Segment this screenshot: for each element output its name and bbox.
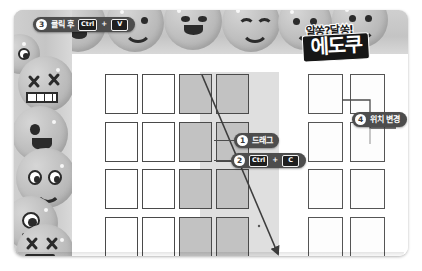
screenshot-root: 알쏭?달쏭! 에도쿠 3 클릭 후 Ctrl + V 1 드래그 2 Ctrl … [0,0,422,271]
grid-cell[interactable] [142,217,175,256]
instruction-page-card: 알쏭?달쏭! 에도쿠 [14,10,408,256]
callout-2-number: 2 [234,155,245,166]
callout-step-3: 3 클릭 후 Ctrl + V [33,17,135,32]
tongue-out-face-icon [222,10,280,52]
grid-cell[interactable] [105,122,138,162]
callout-step-2: 2 Ctrl + C [231,153,306,168]
key-ctrl: Ctrl [78,19,97,31]
grid-cell[interactable] [105,169,138,209]
result-cell[interactable] [308,217,343,256]
grid-cell-selected[interactable] [179,74,212,114]
x-eyes-face-icon [18,56,72,112]
key-ctrl: Ctrl [249,155,268,167]
result-cell[interactable] [308,169,343,209]
eye-icon [48,170,62,185]
result-cell[interactable] [350,217,385,256]
key-v: V [111,19,128,31]
callout-1-number: 1 [237,135,248,146]
grid-cell-selected[interactable] [216,217,249,256]
smiley-band-left [14,10,72,256]
callout-3-text: 클릭 후 [51,21,74,29]
callout-4-number: 4 [355,114,366,125]
puzzle-grid[interactable] [105,74,252,256]
callout-4-text: 위치 변경 [370,116,400,124]
grid-cell-selected[interactable] [216,74,249,114]
callout-step-4: 4 위치 변경 [352,112,407,127]
grid-cell-selected[interactable] [179,169,212,209]
grin-face-icon [164,10,222,50]
callout-1-text: 드래그 [252,137,272,145]
card-bottom-shadow [18,252,404,257]
grid-cell[interactable] [142,122,175,162]
logo-name: 에도쿠 [302,32,370,62]
eye-icon [28,170,42,185]
grid-cell[interactable] [105,74,138,114]
grid-cell-selected[interactable] [179,122,212,162]
grid-cell[interactable] [105,217,138,256]
teeth-icon [26,92,58,103]
key-separator: + [101,21,107,28]
result-cell[interactable] [308,122,343,162]
callout-step-1: 1 드래그 [234,133,279,148]
grid-cell-selected[interactable] [179,217,212,256]
brand-logo: 알쏭?달쏭! 에도쿠 [299,10,408,71]
key-separator: + [272,157,278,164]
eye-icon [18,48,30,60]
grid-cell-selected[interactable] [216,169,249,209]
callout-1-leader-line [214,140,236,141]
grid-cell[interactable] [142,74,175,114]
result-cell[interactable] [308,74,343,114]
key-c: C [282,155,299,167]
callout-3-number: 3 [36,19,47,30]
grid-cell[interactable] [142,169,175,209]
result-cell[interactable] [350,169,385,209]
